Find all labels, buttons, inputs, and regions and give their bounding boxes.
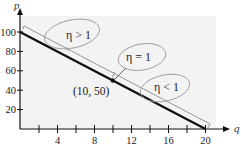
x-tick-label: 16 xyxy=(163,135,174,146)
y-tick-label: 100 xyxy=(0,27,16,38)
y-tick-label: 60 xyxy=(6,65,17,76)
unit-elastic-point xyxy=(111,78,115,82)
x-tick-label: 4 xyxy=(55,135,61,146)
y-tick-label: 80 xyxy=(6,46,17,57)
x-tick-label: 20 xyxy=(200,135,211,146)
eta-eq-label: η = 1 xyxy=(126,50,151,64)
x-tick-label: 12 xyxy=(126,135,137,146)
x-axis-arrow-icon xyxy=(223,126,230,132)
y-axis-label: p xyxy=(13,0,20,11)
y-tick-label: 40 xyxy=(6,85,17,96)
elasticity-chart: p q 20 40 60 80 100 4 8 12 16 20 xyxy=(0,0,241,147)
x-tick-label: 8 xyxy=(92,135,97,146)
eta-gt-label: η > 1 xyxy=(66,28,91,42)
eta-lt-label: η < 1 xyxy=(154,80,179,94)
x-axis-label: q xyxy=(234,122,240,134)
point-label: (10, 50) xyxy=(73,85,110,98)
y-tick-label: 20 xyxy=(6,104,17,115)
